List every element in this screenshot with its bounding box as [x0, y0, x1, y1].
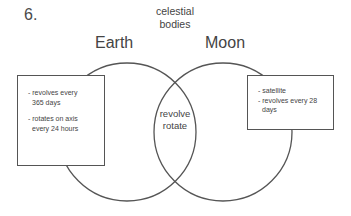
title-line: bodies [135, 18, 215, 31]
diagram-title: celestial bodies [135, 5, 215, 31]
moon-fact: - revolves every 28 days [258, 96, 329, 115]
overlap-region: revolve rotate [146, 108, 204, 132]
earth-facts-box: - revolves every 365 days - rotates on a… [17, 75, 105, 166]
fact-line: every 24 hours [28, 124, 98, 134]
overlap-item: rotate [146, 120, 204, 132]
fact-line: - revolves every 28 [258, 96, 329, 106]
fact-line: 365 days [28, 98, 98, 108]
question-number: 6. [24, 6, 37, 24]
fact-line: - rotates on axis [28, 114, 98, 124]
earth-fact: - rotates on axis every 24 hours [28, 114, 98, 133]
earth-fact: - revolves every 365 days [28, 88, 98, 107]
earth-label: Earth [95, 34, 133, 52]
fact-line: - revolves every [28, 88, 98, 98]
moon-facts-box: - satellite - revolves every 28 days [247, 75, 334, 130]
fact-line: days [258, 105, 329, 115]
title-line: celestial [135, 5, 215, 18]
fact-line: - satellite [258, 86, 329, 96]
moon-fact: - satellite [258, 86, 329, 96]
moon-label: Moon [205, 34, 245, 52]
overlap-item: revolve [146, 108, 204, 120]
